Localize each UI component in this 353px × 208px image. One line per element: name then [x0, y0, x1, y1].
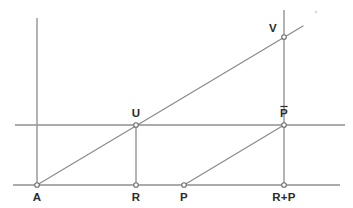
point-label-pbar: P [280, 107, 288, 119]
point-marker-v [282, 35, 287, 40]
point-marker-p [182, 183, 187, 188]
figure-root: ARPR+PUPV [0, 0, 353, 208]
ray-group [37, 26, 303, 185]
point-marker-r [134, 183, 139, 188]
ray-a-v [37, 26, 303, 185]
point-label-a: A [33, 191, 42, 203]
ray-p-pbar [184, 125, 284, 185]
point-label-v: V [269, 22, 277, 34]
page-speck [315, 11, 318, 14]
point-marker-rp [282, 183, 287, 188]
point-label-rp: R+P [272, 191, 295, 203]
point-label-group: ARPR+PUPV [33, 22, 296, 203]
figure-canvas: ARPR+PUPV [0, 0, 353, 208]
ordinate-group [37, 10, 284, 185]
point-marker-a [35, 183, 40, 188]
point-marker-u [134, 123, 139, 128]
point-marker-pbar [282, 123, 287, 128]
point-label-u: U [132, 107, 141, 119]
point-label-r: R [132, 191, 141, 203]
point-label-p: P [180, 191, 188, 203]
